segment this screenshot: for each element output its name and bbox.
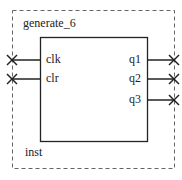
port-label-q1: q1 — [129, 53, 141, 65]
port-label-q2: q2 — [129, 72, 141, 84]
port-label-clk: clk — [46, 53, 61, 65]
port-label-q3: q3 — [129, 93, 141, 105]
instance-label: inst — [25, 146, 42, 158]
instance-name: generate_6 — [23, 17, 76, 29]
port-label-clr: clr — [46, 72, 59, 84]
schematic-symbol: generate_6 clk clr q1 q2 q3 inst — [0, 0, 182, 180]
